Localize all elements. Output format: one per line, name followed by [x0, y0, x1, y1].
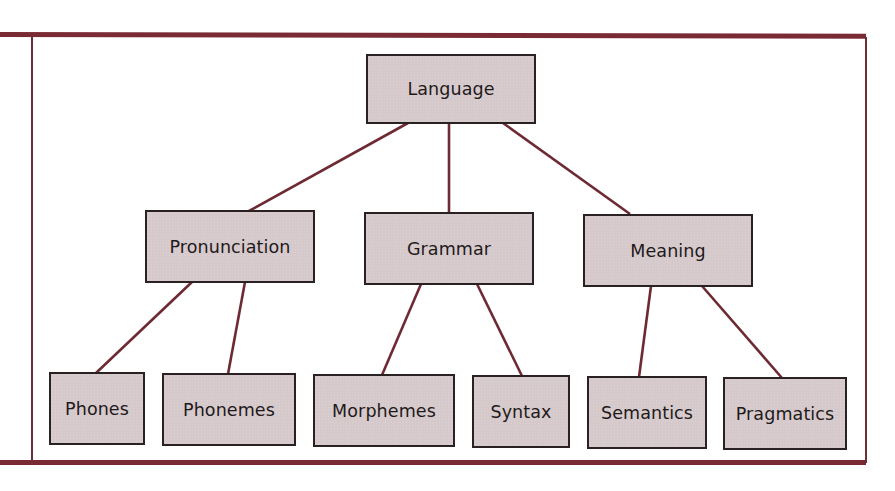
- node-pragmatics: Pragmatics: [723, 377, 847, 450]
- node-grammar: Grammar: [364, 212, 534, 285]
- edge-meaning-semantics: [639, 286, 651, 377]
- node-label: Phones: [65, 399, 129, 419]
- node-label: Semantics: [601, 403, 693, 423]
- edge-language-pronunciation: [249, 123, 408, 211]
- node-syntax: Syntax: [472, 375, 570, 448]
- node-label: Morphemes: [332, 401, 436, 421]
- node-label: Syntax: [490, 402, 551, 422]
- node-label: Meaning: [630, 241, 705, 261]
- edge-language-meaning: [503, 123, 630, 214]
- node-label: Phonemes: [183, 400, 275, 420]
- node-label: Language: [407, 79, 494, 99]
- node-semantics: Semantics: [587, 376, 707, 449]
- edge-pronunciation-phonemes: [228, 282, 245, 374]
- edge-meaning-pragmatics: [702, 286, 782, 378]
- node-label: Grammar: [407, 239, 491, 259]
- node-pronunciation: Pronunciation: [145, 210, 315, 283]
- node-meaning: Meaning: [583, 214, 753, 287]
- node-phonemes: Phonemes: [162, 373, 296, 446]
- node-label: Pronunciation: [169, 237, 290, 257]
- node-phones: Phones: [49, 372, 145, 445]
- node-label: Pragmatics: [736, 404, 835, 424]
- node-language: Language: [366, 54, 536, 124]
- edge-grammar-morphemes: [382, 284, 421, 375]
- edge-grammar-syntax: [477, 284, 522, 376]
- node-morphemes: Morphemes: [313, 374, 455, 447]
- edge-pronunciation-phones: [96, 282, 192, 373]
